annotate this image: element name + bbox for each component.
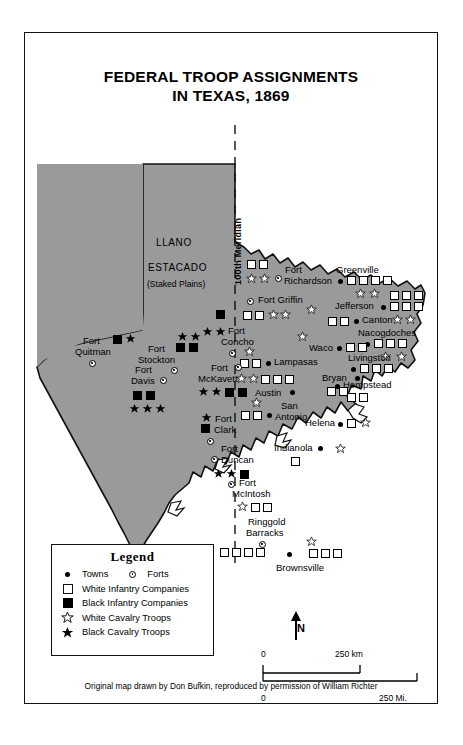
region-llano: LLANO	[156, 237, 192, 248]
map-label-indianola: Indianola	[274, 443, 313, 454]
white-infantry-symbol	[390, 302, 399, 311]
region-estacado: ESTACADO	[148, 262, 207, 273]
white-infantry-symbol	[402, 302, 411, 311]
white-infantry-symbol	[263, 503, 272, 512]
white-infantry-symbol	[402, 291, 411, 300]
north-label: N	[297, 622, 305, 634]
black-square-icon	[61, 598, 74, 608]
black-infantry-symbol	[176, 343, 185, 352]
map-label-fort-davis-2: Davis	[131, 376, 155, 387]
fort-symbol-quitman	[89, 360, 96, 367]
white-square-icon	[61, 584, 74, 594]
white-cavalry-symbol	[237, 501, 248, 512]
white-infantry-symbol	[243, 311, 252, 320]
white-cavalry-symbol	[244, 346, 255, 357]
white-infantry-symbol	[371, 276, 380, 285]
map-label-fort-mckavett-1: Fort	[211, 363, 228, 374]
legend-row-black-infantry: Black Infantry Companies	[52, 596, 213, 611]
map-label-fort-quitman-1: Fort	[83, 336, 100, 347]
map-label-ringgold-2: Barracks	[246, 528, 283, 539]
map-label-fort-duncan-1: Fort	[221, 444, 238, 455]
map-label-fort-clark-2: Clark	[214, 425, 236, 436]
region-staked-plains: (Staked Plains)	[147, 279, 205, 289]
town-symbol-brownsville	[287, 552, 292, 557]
legend-label-towns: Towns	[82, 569, 108, 579]
legend: Legend Towns Forts White Infantry Compan…	[51, 544, 214, 656]
white-cavalry-symbol	[297, 331, 308, 342]
white-infantry-symbol	[255, 311, 264, 320]
white-infantry-symbol	[259, 260, 268, 269]
fort-symbol-duncan	[211, 456, 218, 463]
white-infantry-symbol	[291, 457, 300, 466]
map-frame: FEDERAL TROOP ASSIGNMENTS IN TEXAS, 1869…	[24, 32, 438, 704]
fort-symbol-stockton	[171, 367, 178, 374]
fort-symbol-davis	[160, 377, 167, 384]
black-star-icon	[61, 626, 74, 639]
black-cavalry-symbol	[142, 403, 153, 414]
white-infantry-symbol	[327, 387, 336, 396]
map-label-helena: Helena	[305, 418, 335, 429]
black-cavalry-symbol	[202, 326, 213, 337]
white-infantry-symbol	[340, 317, 349, 326]
white-infantry-symbol	[360, 364, 369, 373]
legend-row-towns-forts: Towns Forts	[52, 567, 213, 582]
white-infantry-symbol	[256, 548, 265, 557]
legend-row-white-infantry: White Infantry Companies	[52, 582, 213, 597]
white-infantry-symbol	[414, 291, 423, 300]
town-symbol-indianola	[318, 446, 323, 451]
white-cavalry-symbol	[306, 304, 317, 315]
map-label-fort-quitman-2: Quitman	[75, 347, 111, 358]
white-infantry-symbol	[309, 549, 318, 558]
town-symbol-greenville	[338, 279, 343, 284]
fort-symbol-mckavett	[235, 364, 242, 371]
white-infantry-symbol	[390, 291, 399, 300]
map-label-waco: Waco	[309, 343, 333, 354]
town-symbol-lampasas	[266, 361, 271, 366]
fort-symbol-mcintosh	[228, 481, 235, 488]
white-infantry-symbol	[321, 549, 330, 558]
white-cavalry-symbol	[355, 288, 366, 299]
black-cavalry-symbol	[190, 331, 201, 342]
map-label-fort-stockton-1: Fort	[148, 344, 165, 355]
legend-label-black-cavalry: Black Cavalry Troops	[82, 627, 170, 637]
map-label-hempstead: Hempstead	[343, 380, 392, 391]
black-infantry-symbol	[238, 388, 247, 397]
white-cavalry-symbol	[259, 273, 270, 284]
white-cavalry-symbol	[335, 443, 346, 454]
map-label-nacogdoches: Nacogdoches	[358, 328, 416, 339]
white-infantry-symbol	[359, 276, 368, 285]
black-infantry-symbol	[113, 335, 122, 344]
white-infantry-symbol	[333, 549, 342, 558]
white-infantry-symbol	[328, 317, 337, 326]
white-star-icon	[61, 611, 74, 624]
black-cavalry-symbol	[226, 468, 237, 479]
legend-label-white-infantry: White Infantry Companies	[82, 584, 189, 594]
black-cavalry-symbol	[155, 403, 166, 414]
white-infantry-symbol	[247, 260, 256, 269]
town-symbol-hempstead	[335, 384, 340, 389]
town-symbol-canton	[354, 319, 359, 324]
white-infantry-symbol	[358, 343, 367, 352]
black-infantry-symbol	[216, 310, 225, 319]
town-symbol-austin	[290, 390, 295, 395]
white-infantry-symbol	[251, 503, 260, 512]
white-infantry-symbol	[347, 276, 356, 285]
map-label-canton: Canton	[362, 315, 393, 326]
map-label-ringgold-1: Ringgold	[248, 517, 286, 528]
black-cavalry-symbol	[129, 403, 140, 414]
white-infantry-symbol	[232, 548, 241, 557]
map-label-brownsville: Brownsville	[276, 563, 324, 574]
black-infantry-symbol	[146, 391, 155, 400]
white-infantry-symbol	[386, 339, 395, 348]
black-cavalry-symbol	[201, 412, 212, 423]
fort-symbol-clark	[207, 438, 214, 445]
scale-km-zero: 0	[261, 649, 266, 659]
map-label-fort-mcintosh-2: McIntosh	[232, 489, 271, 500]
white-infantry-symbol	[220, 548, 229, 557]
map-label-fort-duncan-2: Duncan	[221, 455, 254, 466]
map-label-fort-mcintosh-1: Fort	[239, 478, 256, 489]
map-label-fort-richardson-1: Fort	[285, 265, 302, 276]
white-infantry-symbol	[383, 276, 392, 285]
map-label-lampasas: Lampasas	[274, 357, 318, 368]
white-infantry-symbol	[398, 339, 407, 348]
